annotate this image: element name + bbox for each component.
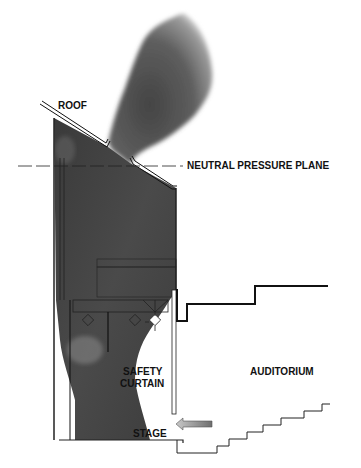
safety-curtain bbox=[172, 290, 176, 414]
stage-smoke-diagram: ROOF NEUTRAL PRESSURE PLANE SAFETY CURTA… bbox=[0, 0, 361, 468]
safety-curtain-label-line1: SAFETY bbox=[123, 366, 163, 377]
stage-label: STAGE bbox=[133, 428, 167, 439]
auditorium-ceiling bbox=[177, 286, 328, 321]
roof-label: ROOF bbox=[58, 100, 87, 111]
neutral-pressure-plane-label: NEUTRAL PRESSURE PLANE bbox=[187, 160, 329, 171]
smoke-highlight-2 bbox=[55, 136, 75, 164]
stage-floor bbox=[59, 440, 183, 443]
safety-curtain-label-line2: CURTAIN bbox=[120, 378, 164, 389]
auditorium-seating-floor bbox=[177, 404, 330, 453]
smoke-plume bbox=[108, 14, 212, 165]
smoke-highlight bbox=[67, 336, 103, 364]
airflow-arrow bbox=[176, 418, 212, 430]
auditorium-label: AUDITORIUM bbox=[250, 366, 314, 377]
